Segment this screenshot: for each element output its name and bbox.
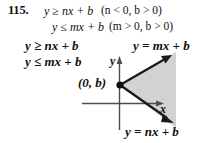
upper-line-label: y = mx + b [133,38,190,54]
x-axis-label: x [160,102,166,117]
coordinate-graph [0,0,206,143]
figure-container: 115. y ≥ nx + b (n < 0, b > 0) y ≤ mx + … [0,0,206,143]
vertex-point-label: (0, b) [78,75,106,91]
y-axis-arrowhead [117,56,123,64]
lower-line-label: y = nx + b [125,124,179,140]
y-axis-label: y [110,54,115,69]
vertex-point-dot [116,81,123,88]
